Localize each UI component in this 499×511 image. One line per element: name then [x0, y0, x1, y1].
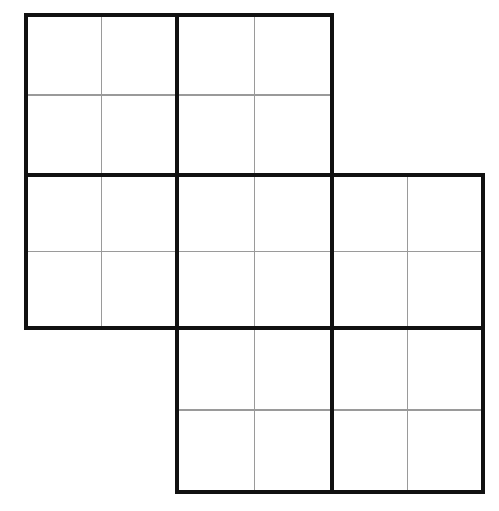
figure-root [0, 0, 499, 511]
grid-diagram [0, 0, 499, 511]
